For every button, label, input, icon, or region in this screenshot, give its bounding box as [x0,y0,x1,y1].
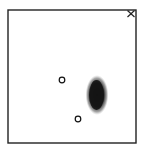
dark-blob-core [89,80,104,110]
close-x-icon [128,11,135,18]
circle-marker [59,77,65,83]
circle-marker [75,116,81,122]
diagram-frame [8,10,136,143]
diagram-canvas [0,0,145,150]
